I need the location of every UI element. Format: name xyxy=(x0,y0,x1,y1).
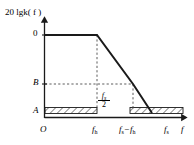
x-axis-title: f xyxy=(181,125,184,134)
y-level-label-zero: 0 xyxy=(33,29,38,38)
x-tick-fs-sub: s xyxy=(167,129,169,135)
x-tick-label-fs-minus-fh: fs−fh xyxy=(119,125,135,134)
annotation-numerator: fs xyxy=(97,92,111,100)
right-stopband-hatch xyxy=(130,108,183,114)
x-tick-fh-sub: h xyxy=(95,129,98,135)
y-axis-title: 20 lgk( f ) xyxy=(5,8,41,17)
x-tick-label-fh: fh xyxy=(92,125,98,134)
y-level-label-A: A xyxy=(33,106,39,115)
dashed-guides xyxy=(45,35,133,110)
annotation-denominator: 2 xyxy=(97,101,111,109)
hatched-band-group xyxy=(45,108,183,114)
x-tick-label-fs: fs xyxy=(164,125,169,134)
annotation-half-sampling-frequency: fs 2 xyxy=(97,92,111,110)
y-level-label-B: B xyxy=(33,78,39,87)
left-stopband-hatch xyxy=(45,108,97,114)
origin-label: O xyxy=(40,125,47,134)
x-tick-fsfh-sub1: s xyxy=(122,129,124,135)
filter-response-figure: 20 lgk( f ) 0 B A O fh fs−fh fs f fs 2 xyxy=(0,0,194,145)
